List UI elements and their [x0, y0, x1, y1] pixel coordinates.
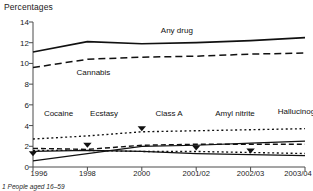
chart-footnote: 1 People aged 16–59	[2, 183, 65, 190]
marker-class-a	[138, 126, 146, 131]
series-line-cannabis	[33, 53, 305, 68]
marker-ecstasy	[83, 143, 91, 148]
x-tick-2003-04: 2003/04	[284, 169, 311, 178]
y-tick-2: 2	[9, 142, 29, 151]
y-tick-4: 4	[9, 121, 29, 130]
y-tick-14: 14	[9, 18, 29, 27]
marker-amyl-nitrite	[192, 145, 200, 150]
y-tick-0: 0	[9, 163, 29, 172]
series-line-class-a	[33, 129, 305, 139]
y-tick-10: 10	[9, 59, 29, 68]
y-tick-8: 8	[9, 80, 29, 89]
y-axis-title: Percentages	[4, 2, 53, 12]
plot-svg	[33, 22, 305, 167]
y-tick-12: 12	[9, 38, 29, 47]
drug-use-line-chart: Percentages 02468101214 1996199820002001…	[0, 0, 313, 191]
plot-area	[33, 22, 305, 167]
marker-hallucinogens	[246, 149, 254, 154]
marker-cocaine	[29, 151, 37, 156]
y-tick-6: 6	[9, 100, 29, 109]
series-line-any-drug	[33, 38, 305, 53]
series-line-ecstasy	[33, 144, 305, 149]
